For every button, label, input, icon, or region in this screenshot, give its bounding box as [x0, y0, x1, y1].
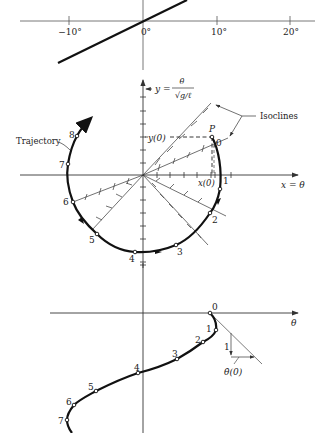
- phase-plane: 0 1 2 3 4 5 6 7 8 P y(0) x(0) x = θ y = …: [16, 77, 305, 268]
- svg-text:y =: y =: [154, 84, 171, 94]
- time-theta-label: θ: [291, 318, 297, 328]
- svg-text:√g/ℓ: √g/ℓ: [175, 91, 192, 100]
- phase-point-1: 1: [223, 176, 229, 186]
- slope-run-label: θ̇(0): [224, 367, 243, 377]
- svg-text:θ̇: θ̇: [180, 77, 185, 86]
- time-point-5: 5: [88, 382, 94, 392]
- isocline-6: [73, 175, 143, 202]
- tick-label-0: 0°: [141, 27, 151, 37]
- phase-x-axis-label: x = θ: [281, 180, 305, 190]
- phase-point-7: 7: [59, 160, 65, 170]
- time-point-4: 4: [134, 363, 140, 373]
- pendulum-phase-plane-figure: −10° 0° 10° 20°: [0, 0, 315, 433]
- phase-point-4: 4: [129, 254, 135, 264]
- time-point-6: 6: [66, 397, 72, 407]
- phase-point-0: 0: [216, 138, 222, 148]
- time-point-3: 3: [172, 349, 178, 359]
- phase-y-axis-label: y = θ̇ √g/ℓ: [146, 77, 194, 100]
- time-point-0: 0: [212, 302, 218, 312]
- trajectory-callout: Trajectory: [16, 136, 70, 150]
- tick-label-20: 20°: [283, 27, 299, 37]
- trajectory-label: Trajectory: [16, 136, 61, 146]
- phase-point-5: 5: [89, 235, 95, 245]
- time-point-1: 1: [206, 324, 212, 334]
- phase-point-8: 8: [69, 130, 75, 140]
- isoclines-label: Isoclines: [260, 111, 298, 121]
- x0-label: x(0): [198, 178, 215, 188]
- time-point-2: 2: [195, 335, 201, 345]
- phase-point-2: 2: [212, 215, 218, 225]
- time-point-7: 7: [58, 416, 64, 426]
- slope-run-leader: [234, 357, 239, 364]
- point-p-label: P: [208, 124, 216, 134]
- isoclines-callout: Isoclines: [216, 105, 298, 136]
- phase-point-6: 6: [63, 197, 69, 207]
- phase-point-3: 3: [177, 247, 183, 257]
- isocline-5: [92, 175, 143, 230]
- tick-label-10: 10°: [211, 27, 227, 37]
- time-plot: θ 1 θ̇(0) 0 1 2 3 4 5 6 7: [50, 263, 298, 433]
- isocline-lines: [73, 103, 228, 245]
- time-points: [65, 311, 218, 422]
- top-chart: −10° 0° 10° 20°: [20, 0, 315, 70]
- theta-time-curve: [67, 313, 216, 433]
- slope-rise-label: 1: [224, 342, 230, 352]
- tick-label-minus10: −10°: [58, 27, 82, 37]
- y0-label: y(0): [147, 133, 166, 143]
